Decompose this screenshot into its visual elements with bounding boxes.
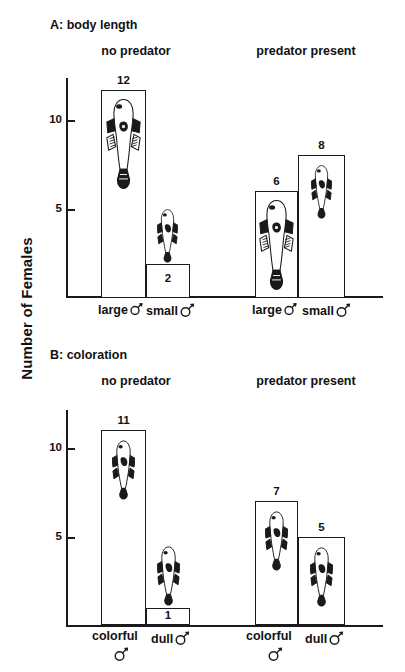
male-symbol-icon	[174, 629, 191, 649]
fish-small-icon	[310, 545, 333, 607]
male-symbol-icon	[113, 645, 130, 666]
fish-small-icon	[112, 438, 135, 500]
panel-a-plot: 10 5 12	[0, 0, 405, 336]
figure-root: Number of Females A: body length no pred…	[0, 0, 405, 672]
panel-a-category-small-no-predator: small	[146, 301, 196, 321]
panel-b-x-axis	[66, 625, 383, 627]
panel-b-category-dull-predator: dull	[305, 629, 345, 649]
fish-small-icon	[265, 509, 288, 571]
panel-a-category-small-predator: small	[302, 301, 352, 321]
male-symbol-icon	[283, 301, 298, 319]
category-text: large	[98, 303, 128, 317]
panel-b-category-colorful-no-predator: colorful	[92, 629, 138, 643]
panel-a-bar-small-predator-value: 8	[298, 139, 345, 151]
panel-b-tick-label-10: 10	[34, 441, 62, 453]
male-symbol-icon	[328, 629, 345, 649]
male-symbol-icon	[335, 301, 352, 321]
fish-small-icon	[157, 207, 178, 263]
category-text: colorful	[92, 629, 138, 643]
panel-a-bar-small-no-predator-value: 2	[146, 272, 190, 284]
panel-a-bar-large-no-predator-value: 12	[101, 74, 146, 86]
panel-a-category-large-predator: large	[252, 301, 298, 319]
panel-b-bar-dull-predator-value: 5	[298, 521, 345, 533]
panel-a-bar-large-predator-value: 6	[255, 175, 298, 187]
category-text: dull	[305, 632, 327, 646]
panel-a-tick-5	[68, 209, 75, 211]
male-symbol-icon	[179, 301, 196, 321]
category-text: small	[146, 304, 178, 318]
category-text: dull	[151, 632, 173, 646]
panel-a-category-large-no-predator: large	[98, 301, 144, 319]
fish-small-icon	[311, 163, 332, 219]
category-text: small	[302, 304, 334, 318]
panel-a-tick-label-5: 5	[34, 202, 62, 214]
panel-b-y-axis	[66, 410, 68, 625]
panel-b-category-dull-no-predator: dull	[151, 629, 191, 649]
panel-b-category-colorful-predator: colorful	[246, 629, 292, 643]
panel-b-bar-colorful-predator-value: 7	[255, 485, 298, 497]
panel-a-y-axis	[66, 78, 68, 298]
panel-b-tick-10	[68, 448, 75, 450]
panel-b-plot: 10 5 11	[0, 336, 405, 672]
panel-a: A: body length no predator predator pres…	[0, 0, 405, 336]
fish-large-icon	[259, 197, 294, 293]
panel-b-tick-label-5: 5	[34, 530, 62, 542]
panel-a-tick-label-10: 10	[34, 113, 62, 125]
category-text: colorful	[246, 629, 292, 643]
panel-b: B: coloration no predator predator prese…	[0, 336, 405, 672]
panel-b-tick-5	[68, 537, 75, 539]
category-text: large	[252, 303, 282, 317]
fish-small-icon	[157, 544, 180, 606]
male-symbol-icon	[267, 645, 284, 666]
male-symbol-icon	[129, 301, 144, 319]
panel-b-bar-dull-no-predator-value: 1	[146, 609, 190, 621]
fish-large-icon	[106, 96, 141, 192]
panel-a-tick-10	[68, 120, 75, 122]
panel-b-bar-colorful-no-predator-value: 11	[101, 414, 146, 426]
